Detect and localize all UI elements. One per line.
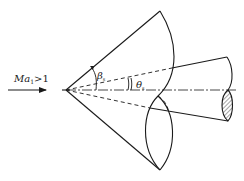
theta-label: θs [136,79,145,91]
cone-body [150,57,232,121]
mach-label: Ma1>1 [13,73,49,85]
beta-angle-arc [92,68,96,90]
theta-angle-arc [128,78,129,90]
beta-label: βs [96,70,106,82]
conical-shock [62,11,174,170]
hatched-section [222,90,233,121]
cone-shock-diagram: Ma1>1 βs θs [0,0,244,181]
